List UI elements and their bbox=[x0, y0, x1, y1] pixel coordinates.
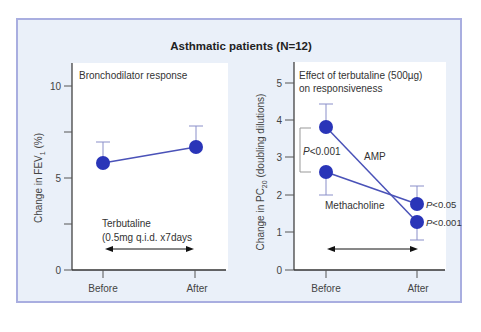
right-y-ticks bbox=[285, 83, 294, 270]
amp-point-before bbox=[319, 120, 333, 134]
right-ytick-3: 3 bbox=[276, 152, 282, 163]
methacholine-after-p: P<0.05 bbox=[426, 199, 456, 210]
left-series-line bbox=[103, 147, 196, 163]
methacholine-label: Methacholine bbox=[325, 200, 385, 211]
right-ytick-0: 0 bbox=[276, 265, 282, 276]
right-ytick-4: 4 bbox=[276, 115, 282, 126]
right-ylabel: Change in PC20 (doubling dilutions) bbox=[255, 94, 268, 251]
right-ytick-2: 2 bbox=[276, 190, 282, 201]
left-y-ticks bbox=[64, 86, 72, 270]
bracket-p-label: P<0.001 bbox=[303, 146, 341, 157]
left-panel-title: Bronchodilator response bbox=[79, 70, 188, 81]
left-ytick-10: 10 bbox=[50, 81, 62, 92]
left-ytick-5: 5 bbox=[55, 173, 61, 184]
amp-after-p: P<0.001 bbox=[426, 217, 462, 228]
left-error-bars bbox=[96, 126, 203, 163]
left-duration-arrow bbox=[105, 246, 194, 252]
right-xlabel-before: Before bbox=[311, 283, 341, 294]
left-ytick-0: 0 bbox=[55, 265, 61, 276]
right-chart: 0 1 2 3 4 5 Before After Change in PC20 … bbox=[255, 62, 462, 294]
left-annotation-line2: (0.5mg q.i.d. x7days bbox=[102, 232, 192, 243]
left-xlabel-before: Before bbox=[88, 283, 118, 294]
methacholine-point-before bbox=[319, 165, 333, 179]
right-error-bars bbox=[319, 104, 424, 240]
right-ytick-5: 5 bbox=[276, 78, 282, 89]
right-panel-title-line2: on responsiveness bbox=[299, 83, 382, 94]
left-ylabel: Change in FEV1 (%) bbox=[33, 133, 46, 223]
methacholine-point-after bbox=[410, 197, 424, 211]
left-point-after bbox=[189, 140, 203, 154]
left-xlabel-after: After bbox=[186, 283, 208, 294]
right-duration-arrow bbox=[327, 246, 418, 252]
amp-label: AMP bbox=[364, 151, 386, 162]
right-panel-title-line1: Effect of terbutaline (500µg) bbox=[299, 70, 422, 81]
amp-point-after bbox=[410, 215, 424, 229]
left-annotation-line1: Terbutaline bbox=[102, 218, 151, 229]
right-xlabel-after: After bbox=[407, 283, 429, 294]
right-ytick-1: 1 bbox=[276, 227, 282, 238]
left-chart: 0 5 10 Before After Change in FEV1 (%) B… bbox=[33, 63, 226, 294]
charts-svg: 0 5 10 Before After Change in FEV1 (%) B… bbox=[0, 0, 481, 332]
left-point-before bbox=[96, 156, 110, 170]
